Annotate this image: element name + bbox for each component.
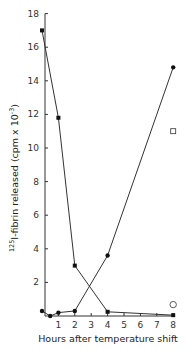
y-tick-label: 12 [28,109,39,119]
y-tick-label: 14 [28,76,40,86]
data-point [56,116,60,120]
y-tick-label: 2 [33,277,39,287]
x-tick-label: 8 [170,320,176,330]
x-tick-label: 2 [72,320,78,330]
x-tick-label: 7 [154,320,160,330]
data-point [48,314,52,318]
series-line [42,30,173,315]
x-tick-label: 4 [105,320,111,330]
series-rising [40,65,176,318]
data-point [170,301,176,307]
x-tick-label: 1 [56,320,62,330]
data-point [171,65,175,69]
series-line [42,67,173,316]
series-declining [40,28,175,317]
y-tick-label: 6 [33,210,39,220]
y-tick-label: 10 [28,143,40,153]
data-point [171,313,175,317]
data-point [40,309,44,313]
x-tick-label: 3 [88,320,94,330]
y-tick-label: 16 [28,42,40,52]
data-point [106,310,110,314]
data-point [56,310,60,314]
x-tick-label: 6 [138,320,144,330]
series-open-circle-point [170,301,176,307]
data-point [73,309,77,313]
x-axis-title: Hours after temperature shift [38,333,178,344]
y-tick-label: 18 [28,9,40,19]
x-tick-label: 5 [121,320,127,330]
series-open-square-point [171,129,176,134]
axes: 2468101214161812345678 [28,9,177,330]
data-point [40,28,44,32]
data-point [105,253,109,257]
chart: 2468101214161812345678 Hours after tempe… [0,0,187,349]
y-axis-title: 125I-fibrin released (cpm x 10-3) [8,104,20,252]
y-tick-label: 4 [33,244,39,254]
y-tick-label: 8 [33,177,39,187]
data-point [171,129,176,134]
data-series [40,28,177,318]
data-point [73,264,77,268]
